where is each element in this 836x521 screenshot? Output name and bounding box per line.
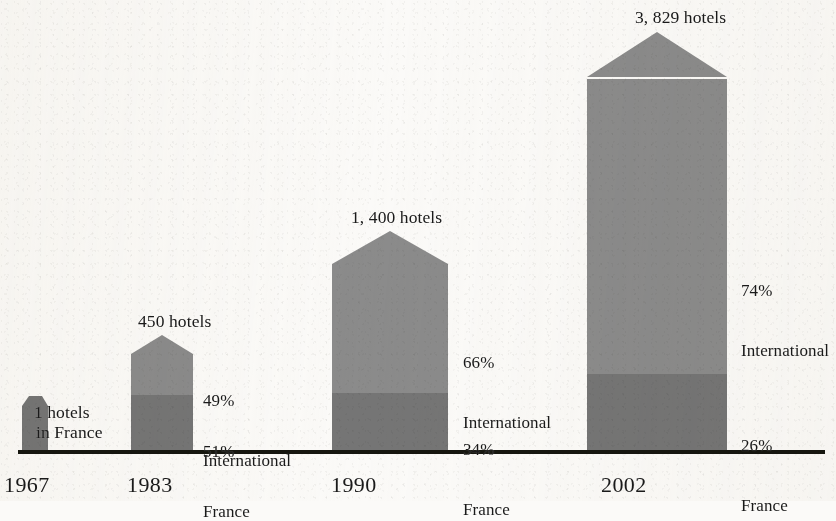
bar-2002-france-segment: [587, 374, 727, 452]
bar-2002-roof: [587, 32, 727, 77]
bar-1990-france-pct: 34%: [463, 440, 510, 460]
bar-1990-total-label: 1, 400 hotels: [351, 207, 442, 228]
bar-2002-international-pct: 74%: [741, 281, 829, 301]
bar-2002-total-label: 3, 829 hotels: [635, 7, 726, 28]
bar-1983-total-label: 450 hotels: [138, 311, 211, 332]
bar-1967-total-label: 1 hotelsin France: [16, 381, 103, 484]
bar-1967-france-note: in France: [16, 422, 103, 443]
x-tick-label-2002: 2002: [601, 472, 647, 498]
x-tick-label-1983: 1983: [127, 472, 173, 498]
bar-2002-international-label: 74% International: [741, 241, 829, 401]
bar-1983-france-segment: [131, 395, 193, 452]
bar-1990-international-pct: 66%: [463, 353, 551, 373]
bar-1990-france-segment: [332, 393, 448, 452]
bar-2002-international-segment: [587, 79, 727, 374]
bar-1983-international-segment: [131, 335, 193, 395]
bar-1990-international-segment: [332, 231, 448, 393]
bar-1983-france-pct: 51%: [203, 442, 250, 462]
x-tick-label-1990: 1990: [331, 472, 377, 498]
bar-2002-international-name: International: [741, 341, 829, 361]
bar-2002-france-name: France: [741, 496, 788, 516]
bar-2002-france-pct: 26%: [741, 436, 788, 456]
x-tick-label-1967: 1967: [4, 472, 50, 498]
bar-2002-france-label: 26% France: [741, 396, 788, 521]
bar-1990-france-name: France: [463, 500, 510, 520]
bar-1983-france-name: France: [203, 502, 250, 521]
bar-1983: [129, 334, 199, 452]
bar-1990: [330, 229, 454, 452]
x-axis-line: [18, 450, 825, 454]
bar-1990-france-label: 34% France: [463, 400, 510, 521]
bar-2002: [583, 30, 731, 452]
bar-1983-france-label: 51% France: [203, 402, 250, 521]
